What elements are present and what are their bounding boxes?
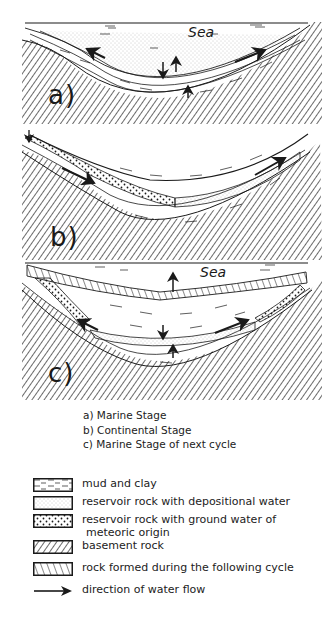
legend-label: basement rock xyxy=(82,539,164,552)
panel-a-label: a) xyxy=(48,80,76,110)
legend-label-line2: meteoric origin xyxy=(82,526,276,539)
fine-stipple-swatch-icon xyxy=(33,496,73,510)
stage-caption-c: c) Marine Stage of next cycle xyxy=(83,437,236,452)
legend-item-reservoir-depositional: reservoir rock with depositional water xyxy=(33,495,323,513)
legend-item-basement: basement rock xyxy=(33,539,323,557)
sparse-hatch-swatch-icon xyxy=(33,562,73,576)
legend-label: reservoir rock with depositional water xyxy=(82,495,290,508)
legend-label: rock formed during the following cycle xyxy=(82,561,294,574)
legend: mud and clay reservoir rock with deposit… xyxy=(33,477,323,601)
dense-hatch-swatch-icon xyxy=(33,540,73,554)
coarse-dots-swatch-icon xyxy=(33,514,73,528)
arrow-right-icon xyxy=(33,584,73,598)
stage-caption-b: b) Continental Stage xyxy=(83,423,236,438)
legend-label: reservoir rock with ground water of mete… xyxy=(82,513,276,539)
legend-label: mud and clay xyxy=(82,477,157,490)
legend-item-water-flow: direction of water flow xyxy=(33,583,323,601)
legend-label-line1: reservoir rock with ground water of xyxy=(82,513,276,526)
panel-c-label: c) xyxy=(48,358,74,388)
mud-swatch-icon xyxy=(33,478,73,492)
legend-item-mud: mud and clay xyxy=(33,477,323,495)
legend-item-following-cycle: rock formed during the following cycle xyxy=(33,561,323,583)
stage-captions: a) Marine Stage b) Continental Stage c) … xyxy=(83,408,236,452)
sea-label-c: Sea xyxy=(200,264,226,280)
panel-b-label: b) xyxy=(50,222,79,252)
stage-caption-a: a) Marine Stage xyxy=(83,408,236,423)
sea-label-a: Sea xyxy=(188,24,214,40)
legend-label: direction of water flow xyxy=(82,583,205,596)
